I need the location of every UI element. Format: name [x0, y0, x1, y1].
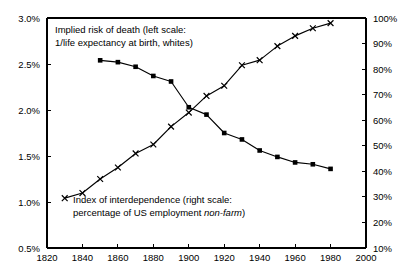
data-point-marker [275, 155, 280, 160]
right-y-tick-label: 40% [373, 166, 393, 177]
data-point-marker [116, 60, 121, 65]
x-tick-label: 1820 [36, 252, 57, 263]
right-y-tick-label: 30% [373, 191, 393, 202]
left-y-tick-label: 2.0% [18, 105, 40, 116]
data-point-marker [240, 137, 245, 142]
data-point-marker [186, 105, 191, 110]
right-y-tick-label: 90% [373, 38, 393, 49]
left-y-tick-label: 2.5% [18, 59, 40, 70]
data-point-marker [257, 148, 262, 153]
data-point-marker [169, 79, 174, 84]
x-tick-label: 1840 [72, 252, 93, 263]
data-point-marker [328, 167, 333, 172]
left-y-tick-label: 1.5% [18, 151, 40, 162]
annotation-top-line2: 1/life expectancy at birth, whites) [55, 37, 193, 48]
data-point-marker [133, 64, 138, 69]
x-tick-label: 2000 [355, 252, 376, 263]
x-tick-label: 1940 [249, 252, 270, 263]
right-y-tick-label: 50% [373, 140, 393, 151]
annotation-top-line1: Implied risk of death (left scale: [55, 24, 186, 35]
annotation-bottom-line1: Index of interdependence (right scale: [73, 194, 232, 205]
right-y-tick-label: 60% [373, 115, 393, 126]
x-tick-label: 1980 [320, 252, 341, 263]
x-tick-label: 1860 [107, 252, 128, 263]
right-y-tick-label: 70% [373, 89, 393, 100]
data-point-marker [311, 162, 316, 167]
x-tick-label: 1900 [178, 252, 199, 263]
right-y-tick-label: 100% [373, 13, 398, 24]
chart-figure: 1820184018601880190019201940196019802000… [0, 0, 412, 275]
annotation-bottom-line2: percentage of US employment non-farm) [73, 207, 245, 218]
data-point-marker [98, 58, 103, 63]
x-tick-label: 1920 [214, 252, 235, 263]
data-point-marker [222, 131, 227, 136]
right-y-tick-label: 10% [373, 243, 393, 254]
left-y-tick-label: 3.0% [18, 13, 40, 24]
right-y-tick-label: 20% [373, 217, 393, 228]
right-y-tick-label: 80% [373, 64, 393, 75]
chart-svg: 1820184018601880190019201940196019802000… [0, 0, 412, 275]
data-point-marker [151, 74, 156, 79]
left-y-tick-label: 1.0% [18, 197, 40, 208]
left-y-tick-label: 0.5% [18, 243, 40, 254]
x-tick-label: 1880 [143, 252, 164, 263]
data-point-marker [293, 160, 298, 165]
x-tick-label: 1960 [285, 252, 306, 263]
data-point-marker [204, 112, 209, 117]
